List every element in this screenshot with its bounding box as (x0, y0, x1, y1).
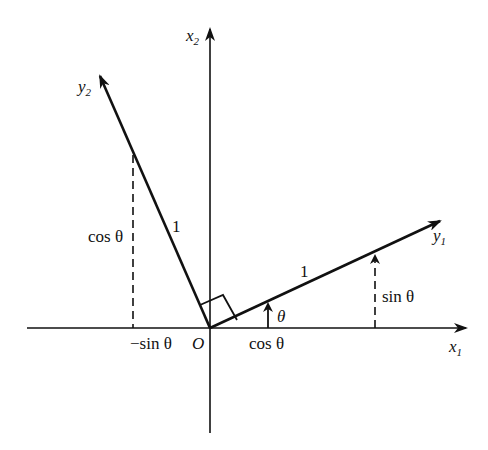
cos-theta-x1-label: cos θ (249, 334, 284, 353)
y2-unit-length-label: 1 (172, 217, 181, 236)
y1-axis (210, 221, 440, 328)
origin-label: O (192, 334, 204, 353)
neg-sin-theta-label: −sin θ (130, 334, 172, 353)
cos-theta-x2-label: cos θ (88, 227, 123, 246)
y2-axis (100, 76, 210, 328)
theta-label: θ (277, 307, 285, 326)
sin-theta-label: sin θ (382, 287, 414, 306)
rotation-diagram: x2 y2 y1 x1 O θ 1 1 cos θ −sin θ cos θ s… (0, 0, 488, 450)
y1-axis-label: y1 (431, 226, 446, 247)
x2-axis-label: x2 (185, 26, 200, 47)
x1-axis-label: x1 (448, 337, 462, 358)
y1-unit-length-label: 1 (300, 262, 309, 281)
y2-axis-label: y2 (76, 77, 92, 98)
